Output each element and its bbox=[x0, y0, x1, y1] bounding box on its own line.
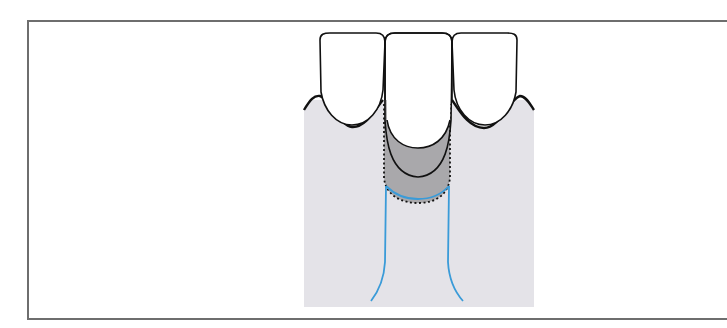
pontic-crown-fill bbox=[386, 34, 451, 148]
left-abutment-tooth bbox=[320, 33, 385, 125]
right-abutment-tooth bbox=[452, 33, 517, 125]
